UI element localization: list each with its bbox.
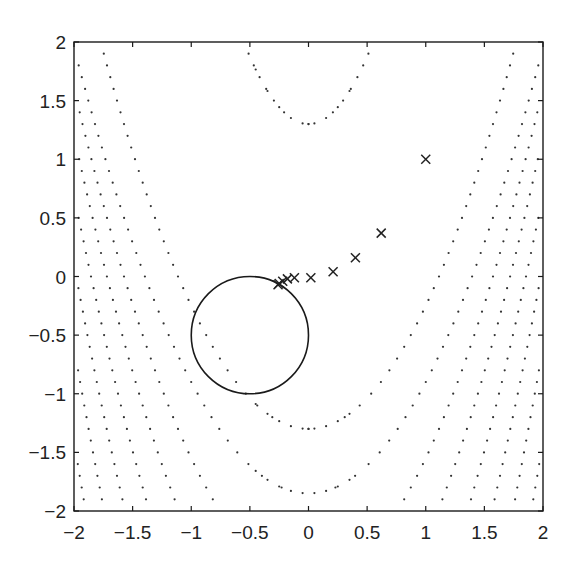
contour-dot xyxy=(492,275,494,277)
contour-dot xyxy=(150,358,152,360)
contour-dot xyxy=(146,346,148,348)
contour-dot xyxy=(172,264,174,266)
contour-dot xyxy=(379,451,381,453)
contour-dot xyxy=(447,334,449,336)
contour-dot xyxy=(87,100,89,102)
x-tick-label: 0.5 xyxy=(354,522,380,543)
contour-dot xyxy=(266,479,268,481)
contour-dot xyxy=(485,146,487,148)
x-marker xyxy=(306,273,315,282)
contour-dot xyxy=(123,416,125,418)
contour-dot xyxy=(477,170,479,172)
contour-dot xyxy=(499,475,501,477)
contour-dot xyxy=(452,393,454,395)
contour-dot xyxy=(462,440,464,442)
contour-dot xyxy=(520,299,522,301)
contour-dot xyxy=(266,90,268,92)
contour-dot xyxy=(302,428,304,430)
contour-dot xyxy=(154,217,156,219)
contour-dot xyxy=(145,498,147,500)
contour-dot xyxy=(470,416,472,418)
contour-dot xyxy=(525,440,527,442)
contour-dot xyxy=(168,334,170,336)
contour-dot xyxy=(495,264,497,266)
contour-dot xyxy=(515,322,517,324)
contour-dot xyxy=(380,381,382,383)
contour-dot xyxy=(116,475,118,477)
contour-dot xyxy=(418,393,420,395)
contour-dot xyxy=(462,299,464,301)
contour-dot xyxy=(458,451,460,453)
y-tick-label: 0 xyxy=(55,267,66,288)
contour-dot xyxy=(199,322,201,324)
contour-dot xyxy=(535,299,537,301)
contour-dot xyxy=(480,463,482,465)
contour-dot xyxy=(528,146,530,148)
contour-dot xyxy=(100,193,102,195)
contour-dot xyxy=(169,486,171,488)
contour-dot xyxy=(473,182,475,184)
contour-dot xyxy=(436,358,438,360)
contour-dot xyxy=(527,428,529,430)
contour-dot xyxy=(112,182,114,184)
contour-dot xyxy=(90,158,92,160)
contour-dot xyxy=(524,358,526,360)
contour-dot xyxy=(236,451,238,453)
y-tick-label: 1 xyxy=(55,149,66,170)
contour-dot xyxy=(100,252,102,254)
contour-dot xyxy=(116,252,118,254)
contour-dot xyxy=(103,53,105,55)
contour-dot xyxy=(492,123,494,125)
contour-dot xyxy=(93,287,95,289)
contour-dot xyxy=(165,475,167,477)
contour-dot xyxy=(443,416,445,418)
x-marker xyxy=(421,155,430,164)
contour-dot xyxy=(457,381,459,383)
contour-dot xyxy=(454,463,456,465)
contour-dot xyxy=(81,76,83,78)
contour-dot xyxy=(212,498,214,500)
contour-dot xyxy=(158,311,160,313)
contour-dot xyxy=(529,334,531,336)
contour-dot xyxy=(290,117,292,119)
contour-dot xyxy=(470,498,472,500)
contour-dot xyxy=(509,64,511,66)
y-tick-label: 1.5 xyxy=(40,91,66,112)
contour-dot xyxy=(477,475,479,477)
contour-dot xyxy=(536,381,538,383)
contour-dot xyxy=(362,64,364,66)
contour-dot xyxy=(528,100,530,102)
contour-dot xyxy=(488,135,490,137)
contour-dot xyxy=(473,404,475,406)
contour-dot xyxy=(153,299,155,301)
contour-dot xyxy=(82,311,84,313)
contour-dot xyxy=(529,193,531,195)
contour-dot xyxy=(370,393,372,395)
contour-dot xyxy=(302,492,304,494)
contour-dot xyxy=(163,322,165,324)
contour-dot xyxy=(87,146,89,148)
contour-dot xyxy=(525,158,527,160)
contour-dot xyxy=(537,64,539,66)
contour-dot xyxy=(154,369,156,371)
contour-dot xyxy=(100,322,102,324)
contour-dot xyxy=(266,413,268,415)
contour-dot xyxy=(178,358,180,360)
contour-dot xyxy=(80,299,82,301)
contour-dot xyxy=(325,490,327,492)
contour-dot xyxy=(132,451,134,453)
contour-dot xyxy=(142,404,144,406)
contour-dot xyxy=(518,135,520,137)
contour-dot xyxy=(90,440,92,442)
contour-dot xyxy=(83,498,85,500)
y-tick-label: −1.5 xyxy=(28,442,66,463)
contour-dot xyxy=(158,229,160,231)
contour-dot xyxy=(103,264,105,266)
contour-dot xyxy=(104,158,106,160)
contour-dot xyxy=(504,451,506,453)
contour-dot xyxy=(111,451,113,453)
contour-dot xyxy=(119,111,121,113)
contour-dot xyxy=(497,322,499,324)
contour-dot xyxy=(518,240,520,242)
contour-dot xyxy=(512,264,514,266)
